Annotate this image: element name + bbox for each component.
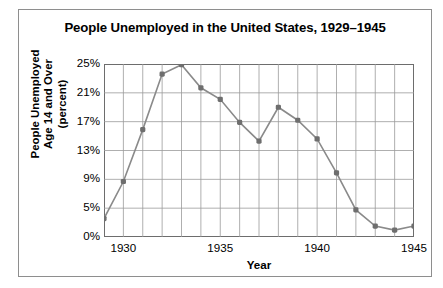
y-axis-tick-label: 21%: [56, 85, 100, 98]
data-point-marker: [237, 120, 242, 125]
y-axis-tick-label: 25%: [56, 56, 100, 69]
data-point-marker: [373, 223, 378, 228]
x-axis-tick-label: 1940: [287, 241, 347, 254]
data-point-marker: [276, 105, 281, 110]
x-axis-tick-labels: 1930193519401945: [104, 241, 414, 257]
y-axis-tick-label: 17%: [56, 114, 100, 127]
data-point-marker: [353, 207, 358, 212]
data-point-marker: [256, 139, 261, 144]
chart-title: People Unemployed in the United States, …: [18, 20, 432, 35]
y-axis-tick-label: 13%: [56, 143, 100, 156]
plot-svg: [104, 64, 414, 237]
chart-figure: People Unemployed in the United States, …: [0, 0, 443, 288]
data-point-marker: [218, 97, 223, 102]
y-axis-tick-label: 5%: [56, 200, 100, 213]
data-point-marker: [104, 216, 107, 221]
data-point-marker: [140, 127, 145, 132]
y-axis-tick-label: 9%: [56, 171, 100, 184]
data-point-marker: [121, 179, 126, 184]
y-axis-tick-labels: 0%5%9%13%17%21%25%: [52, 64, 100, 237]
data-point-marker: [295, 118, 300, 123]
data-point-marker: [392, 227, 397, 232]
y-axis-title-line-1: People Unemployed: [29, 50, 42, 159]
plot-area-wrapper: [104, 64, 414, 237]
x-axis-title: Year: [104, 258, 414, 271]
x-axis-tick-label: 1945: [384, 241, 443, 254]
data-point-marker: [411, 223, 414, 228]
data-point-marker: [315, 136, 320, 141]
data-point-marker: [160, 71, 165, 76]
data-point-marker: [179, 64, 184, 67]
data-point-marker: [198, 85, 203, 90]
data-point-marker: [334, 170, 339, 175]
x-axis-tick-label: 1935: [190, 241, 250, 254]
x-axis-tick-label: 1930: [93, 241, 153, 254]
